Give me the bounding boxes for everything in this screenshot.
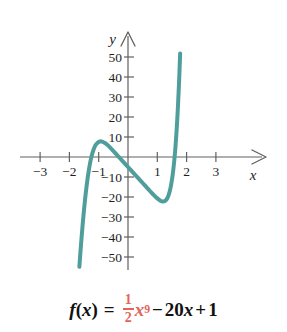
function-curve <box>79 53 180 266</box>
y-tick-label: 30 <box>109 90 123 105</box>
y-tick-label: −50 <box>101 250 122 265</box>
x-axis-label: x <box>249 167 257 183</box>
y-axis-label: y <box>107 31 116 47</box>
formula-lhs-var: x <box>82 299 92 321</box>
formula-exponent: 9 <box>144 303 150 317</box>
formula-plus: + <box>195 299 206 321</box>
y-tick-label: 50 <box>109 50 123 65</box>
formula-fraction-one-half: 1 2 <box>123 293 134 325</box>
x-tick-label: 2 <box>183 164 190 179</box>
formula-equals: = <box>104 299 115 321</box>
x-tick-label: 1 <box>154 164 161 179</box>
x-tick-label: −2 <box>62 164 76 179</box>
formula-linear-coef: 20 <box>165 299 184 321</box>
y-tick-label: −40 <box>101 230 122 245</box>
fraction-numerator: 1 <box>123 293 134 307</box>
x-tick-label: 3 <box>213 164 220 179</box>
formula-constant: 1 <box>208 299 218 321</box>
y-tick-label: 20 <box>109 110 123 125</box>
y-tick-label: 40 <box>109 70 123 85</box>
fraction-denominator: 2 <box>123 311 134 325</box>
y-tick-label: −10 <box>101 170 122 185</box>
formula-linear-var: x <box>184 299 194 321</box>
formula-minus: − <box>152 299 163 321</box>
function-formula: f(x) = 1 2 x9 −20x +1 <box>0 288 287 332</box>
y-tick-label: −30 <box>101 210 122 225</box>
plot-canvas: −3 −2 −1 1 2 3 50 40 30 20 10 −10 −20 −3… <box>0 0 287 290</box>
function-graph-figure: −3 −2 −1 1 2 3 50 40 30 20 10 −10 −20 −3… <box>0 0 287 332</box>
x-tick-label: −3 <box>33 164 48 179</box>
formula-close-paren: ) <box>91 299 97 321</box>
y-tick-label: −20 <box>101 190 122 205</box>
y-tick-label: 10 <box>109 130 123 145</box>
formula-base-var: x <box>135 299 145 321</box>
